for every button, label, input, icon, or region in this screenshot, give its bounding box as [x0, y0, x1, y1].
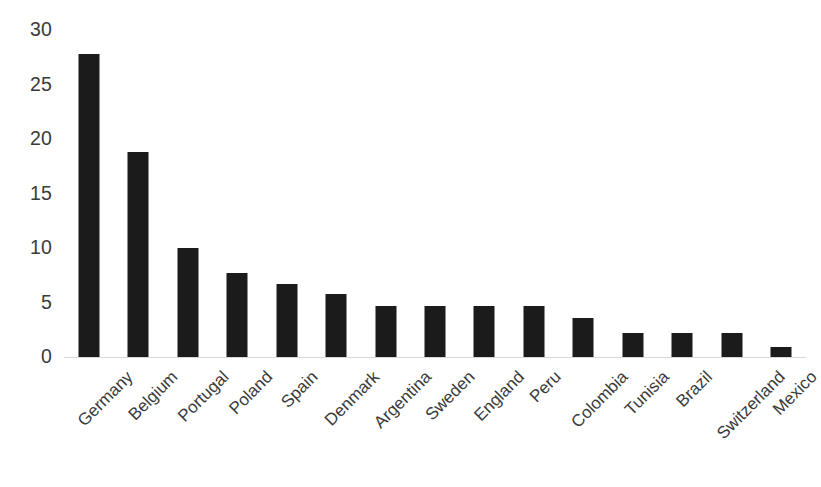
bar[interactable]: [474, 306, 495, 357]
y-axis: 051015202530: [0, 0, 64, 487]
y-axis-tick-label: 30: [30, 20, 52, 40]
bar-slot: [163, 30, 212, 357]
x-axis-tick: Tunisia: [608, 362, 657, 487]
x-axis-tick: England: [460, 362, 509, 487]
bar[interactable]: [672, 333, 693, 357]
y-axis-tick-label: 10: [30, 238, 52, 258]
x-axis-tick: Mexico: [757, 362, 806, 487]
x-axis-tick: Peru: [509, 362, 558, 487]
x-axis-tick: Poland: [212, 362, 261, 487]
y-axis-tick-label: 0: [41, 347, 52, 367]
x-axis-tick: Colombia: [559, 362, 608, 487]
bar-slot: [707, 30, 756, 357]
x-axis-tick: Portugal: [163, 362, 212, 487]
plot-area: [64, 30, 806, 358]
bar[interactable]: [424, 306, 445, 357]
bar[interactable]: [276, 284, 297, 357]
bar[interactable]: [771, 347, 792, 357]
y-axis-tick-label: 15: [30, 184, 52, 204]
y-axis-tick-label: 20: [30, 129, 52, 149]
y-axis-tick-label: 25: [30, 75, 52, 95]
bar-slot: [757, 30, 806, 357]
bar[interactable]: [573, 318, 594, 357]
bar-slot: [212, 30, 261, 357]
x-axis-tick: Brazil: [658, 362, 707, 487]
bar[interactable]: [721, 333, 742, 357]
x-axis-tick: Denmark: [311, 362, 360, 487]
x-axis-tick: Belgium: [113, 362, 162, 487]
bar-slot: [559, 30, 608, 357]
bar[interactable]: [326, 294, 347, 357]
x-axis-tick: Germany: [64, 362, 113, 487]
bar-slot: [460, 30, 509, 357]
bar-slot: [64, 30, 113, 357]
x-axis-tick: Switzerland: [707, 362, 756, 487]
x-axis-tick: Spain: [262, 362, 311, 487]
x-axis-tick: Sweden: [410, 362, 459, 487]
bar-slot: [410, 30, 459, 357]
x-axis-tick-label: Mexico: [770, 368, 820, 418]
bar[interactable]: [128, 152, 149, 357]
x-axis-baseline: [64, 357, 806, 358]
bar-slot: [658, 30, 707, 357]
bar[interactable]: [78, 54, 99, 357]
bar[interactable]: [622, 333, 643, 357]
bar-slot: [361, 30, 410, 357]
bar-slot: [113, 30, 162, 357]
x-axis-tick: Argentina: [361, 362, 410, 487]
y-axis-tick-label: 5: [41, 293, 52, 313]
bar[interactable]: [177, 248, 198, 357]
bar-slot: [608, 30, 657, 357]
bar-slot: [311, 30, 360, 357]
bar[interactable]: [523, 306, 544, 357]
bar-slot: [509, 30, 558, 357]
bar[interactable]: [375, 306, 396, 357]
bar-slot: [262, 30, 311, 357]
x-axis: GermanyBelgiumPortugalPolandSpainDenmark…: [64, 362, 806, 487]
bar[interactable]: [227, 273, 248, 357]
